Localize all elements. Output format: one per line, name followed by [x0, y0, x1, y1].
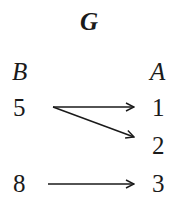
mapping-arrows: [0, 0, 174, 205]
arrow-5-to-2: [53, 107, 134, 137]
